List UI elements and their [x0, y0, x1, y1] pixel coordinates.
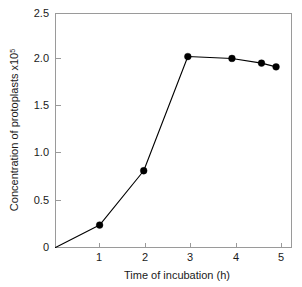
y-axis-title-exponent: 5 — [9, 49, 16, 53]
y-axis-title-group: Concentration of protoplasts x105 — [8, 49, 20, 211]
y-axis-tick-labels: 0 0.5 1.0 1.5 2.0 2.5 — [34, 7, 49, 253]
x-tick-label-2: 2 — [142, 251, 148, 263]
y-axis-title: Concentration of protoplasts x105 — [8, 49, 20, 211]
data-point-marker — [184, 53, 191, 60]
data-series-protoplast-concentration — [56, 53, 280, 247]
y-axis-ticks — [56, 14, 61, 248]
series-markers — [96, 53, 279, 228]
y-tick-label-2: 1.0 — [34, 146, 49, 158]
x-tick-label-3: 3 — [187, 251, 193, 263]
y-axis-title-base: Concentration of protoplasts x10 — [8, 53, 20, 211]
y-tick-label-0: 0 — [43, 241, 49, 253]
x-tick-label-5: 5 — [278, 251, 284, 263]
x-axis-ticks — [100, 243, 282, 248]
line-chart: 0 0.5 1.0 1.5 2.0 2.5 1 2 3 4 5 — [0, 0, 302, 287]
y-tick-label-4: 2.0 — [34, 52, 49, 64]
chart-figure: 0 0.5 1.0 1.5 2.0 2.5 1 2 3 4 5 — [0, 0, 302, 287]
y-tick-label-3: 1.5 — [34, 99, 49, 111]
axis-spines — [56, 14, 292, 248]
series-line — [56, 57, 277, 248]
x-axis-tick-labels: 1 2 3 4 5 — [96, 251, 284, 263]
x-tick-label-4: 4 — [233, 251, 239, 263]
x-axis-title: Time of incubation (h) — [124, 269, 230, 281]
data-point-marker — [229, 55, 236, 62]
data-point-marker — [140, 167, 147, 174]
data-point-marker — [96, 222, 103, 229]
y-tick-label-5: 2.5 — [34, 7, 49, 19]
data-point-marker — [273, 63, 280, 70]
x-tick-label-1: 1 — [96, 251, 102, 263]
data-point-marker — [258, 60, 265, 67]
plot-frame — [56, 14, 292, 248]
y-tick-label-1: 0.5 — [34, 194, 49, 206]
